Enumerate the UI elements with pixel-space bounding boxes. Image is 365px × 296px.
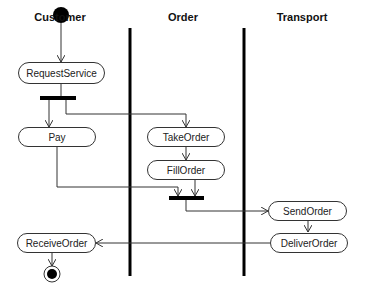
lane-title-transport: Transport <box>262 11 342 23</box>
activity-send-order: SendOrder <box>268 201 347 221</box>
join-bar <box>169 196 204 200</box>
activity-take-order: TakeOrder <box>147 127 225 147</box>
activity-deliver-order: DeliverOrder <box>270 233 348 253</box>
activity-request-service: RequestService <box>18 62 105 84</box>
activity-pay: Pay <box>18 127 96 147</box>
activity-fill-order: FillOrder <box>147 160 225 180</box>
lane-title-customer: Customer <box>20 11 100 23</box>
lane-title-order: Order <box>148 11 218 23</box>
activity-receive-order: ReceiveOrder <box>17 233 96 253</box>
fork-bar <box>40 96 76 100</box>
